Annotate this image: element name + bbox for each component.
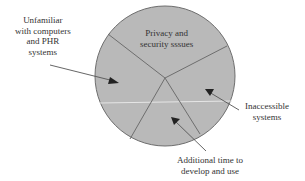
label-line: security sssues (140, 39, 193, 50)
label-unfamiliar: Unfamiliar with computers and PHR system… (15, 15, 71, 57)
label-inaccessible: Inaccessible systems (245, 101, 289, 122)
pie-circle (95, 6, 235, 146)
label-line: Unfamiliar (15, 15, 71, 26)
label-line: systems (15, 47, 71, 58)
label-line: and PHR (15, 36, 71, 47)
label-line: Inaccessible (245, 101, 289, 112)
label-privacy: Privacy and security sssues (140, 28, 193, 49)
label-line: systems (245, 112, 289, 123)
label-line: Additional time to (177, 155, 243, 166)
label-line: develop and use (177, 166, 243, 177)
label-line: Privacy and (140, 28, 193, 39)
label-additional-time: Additional time to develop and use (177, 155, 243, 176)
label-line: with computers (15, 26, 71, 37)
